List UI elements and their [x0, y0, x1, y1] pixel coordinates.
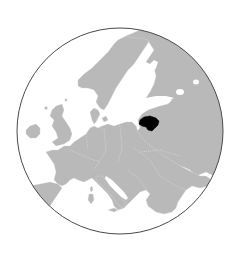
locator-map: Location of Lithuania in Europe Lithuani…: [0, 0, 240, 260]
orkney-islands: [65, 99, 67, 101]
lake-ladoga: [176, 89, 184, 95]
hebrides-islands: [45, 107, 48, 110]
lake-onega: [193, 80, 199, 85]
globe-svg: [0, 0, 240, 260]
